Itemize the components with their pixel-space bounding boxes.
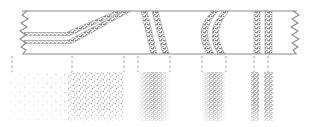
strata-band-band-6-bowed-right — [212, 11, 229, 54]
strata-band-band-7-vertical-left — [254, 11, 260, 54]
profile-zone-peak-b — [202, 72, 226, 121]
strata-band-band-1-lower — [24, 11, 131, 44]
cross-section-panel — [20, 11, 299, 54]
figure-root — [0, 0, 321, 127]
density-profile-panel — [10, 72, 273, 121]
profile-zone-bar-b — [264, 72, 273, 121]
figure-canvas — [0, 0, 321, 127]
profile-zone-sparse — [10, 74, 68, 121]
profile-zone-medium — [68, 72, 124, 121]
correlation-tick-lines — [12, 56, 268, 72]
profile-zone-bar-a — [251, 72, 259, 121]
break-symbol-right-icon — [291, 11, 299, 54]
profile-zone-peak-a — [138, 72, 170, 121]
strata-band-band-8-vertical-right — [265, 11, 272, 54]
strata-band-group — [24, 11, 272, 54]
